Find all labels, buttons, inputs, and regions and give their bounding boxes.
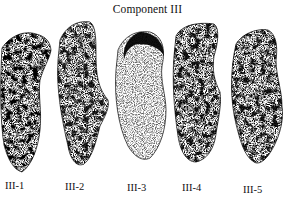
stone-iii-4 [173,23,220,162]
label-iii-3: III-3 [127,182,146,193]
label-iii-5: III-5 [243,184,262,195]
stone-iii-1 [1,33,51,172]
stone-artifacts-illustration [0,0,295,209]
label-iii-2: III-2 [65,181,84,192]
stone-iii-2 [58,22,109,165]
label-iii-1: III-1 [5,180,24,191]
stone-iii-3 [116,32,167,160]
label-iii-4: III-4 [182,182,201,193]
stone-iii-5 [232,30,283,163]
